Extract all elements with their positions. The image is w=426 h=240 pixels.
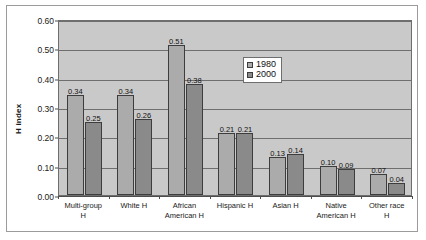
- x-axis-tick-mark: [412, 196, 413, 199]
- bar-group: 0.510.38: [160, 21, 211, 195]
- bar-value-label: 0.09: [333, 161, 360, 170]
- bar-group: 0.070.04: [362, 21, 413, 195]
- legend-label: 2000: [256, 70, 276, 79]
- bar-2000-4[interactable]: [287, 154, 304, 195]
- x-axis-category-line: H: [361, 211, 412, 221]
- x-axis-category-line: White H: [109, 201, 160, 211]
- bar-value-label: 0.14: [282, 146, 309, 155]
- bar-value-label: 0.34: [62, 87, 89, 96]
- legend-label: 1980: [256, 60, 276, 69]
- x-axis-tick-mark: [58, 196, 59, 199]
- bar-2000-5[interactable]: [338, 169, 355, 195]
- x-axis-category-line: Multi-group: [58, 201, 109, 211]
- x-axis-line: [58, 196, 412, 197]
- bar-value-label: 0.25: [80, 114, 107, 123]
- x-axis-category-label: Asian H: [260, 201, 311, 211]
- bar-2000-1[interactable]: [135, 119, 152, 195]
- legend-item[interactable]: 1980: [247, 60, 276, 69]
- bar-1980-5[interactable]: [320, 166, 337, 195]
- y-axis-tick-label: 0.10: [37, 163, 54, 173]
- bar-1980-2[interactable]: [168, 45, 185, 195]
- x-axis-category-label: Hispanic H: [210, 201, 261, 211]
- bar-value-label: 0.21: [231, 125, 258, 134]
- bar-1980-0[interactable]: [67, 95, 84, 195]
- x-axis-category-line: Asian H: [260, 201, 311, 211]
- chart-legend: 19802000: [243, 57, 282, 83]
- bar-2000-0[interactable]: [85, 122, 102, 195]
- bar-1980-4[interactable]: [269, 157, 286, 195]
- y-axis-tick-label: 0.60: [37, 16, 54, 26]
- chart-frame: H index 0.600.500.400.300.200.100.00 0.3…: [6, 5, 418, 232]
- x-axis-category-label: AfricanAmerican H: [159, 201, 210, 220]
- x-axis-category-label: Multi-groupH: [58, 201, 109, 220]
- y-axis-tick-label: 0.00: [37, 192, 54, 202]
- x-axis-category-line: American H: [311, 211, 362, 221]
- bar-value-label: 0.38: [181, 76, 208, 85]
- legend-swatch-icon: [247, 72, 253, 78]
- x-axis-category-line: Native: [311, 201, 362, 211]
- x-axis-category-line: Other race: [361, 201, 412, 211]
- bar-2000-3[interactable]: [236, 133, 253, 195]
- bar-group: 0.340.26: [110, 21, 161, 195]
- x-axis-category-line: Hispanic H: [210, 201, 261, 211]
- x-axis-tick-mark: [311, 196, 312, 199]
- x-axis-tick-mark: [109, 196, 110, 199]
- y-axis-tick-label: 0.50: [37, 45, 54, 55]
- x-axis-tick-mark: [159, 196, 160, 199]
- x-axis-tick-mark: [361, 196, 362, 199]
- y-axis-tick-label: 0.40: [37, 75, 54, 85]
- bar-value-label: 0.26: [130, 111, 157, 120]
- bar-value-label: 0.07: [365, 166, 392, 175]
- bar-2000-6[interactable]: [388, 183, 405, 195]
- y-axis-tick-label: 0.30: [37, 104, 54, 114]
- x-axis-category-line: H: [58, 211, 109, 221]
- bar-value-label: 0.34: [112, 87, 139, 96]
- bar-value-label: 0.51: [163, 37, 190, 46]
- y-axis-tick-labels: 0.600.500.400.300.200.100.00: [25, 20, 58, 196]
- legend-item[interactable]: 2000: [247, 70, 276, 79]
- bar-group: 0.100.09: [312, 21, 363, 195]
- bars-layer: 0.340.250.340.260.510.380.210.210.130.14…: [59, 21, 411, 195]
- bar-group: 0.340.25: [59, 21, 110, 195]
- x-axis-tick-mark: [260, 196, 261, 199]
- x-axis-category-line: African: [159, 201, 210, 211]
- bar-2000-2[interactable]: [186, 84, 203, 195]
- x-axis-tick-labels: Multi-groupHWhite HAfricanAmerican HHisp…: [58, 201, 412, 231]
- bar-1980-3[interactable]: [218, 133, 235, 195]
- bar-group: 0.130.14: [261, 21, 312, 195]
- plot-area: 0.340.250.340.260.510.380.210.210.130.14…: [58, 20, 412, 196]
- legend-swatch-icon: [247, 62, 253, 68]
- x-axis-category-label: NativeAmerican H: [311, 201, 362, 220]
- x-axis-tick-mark: [210, 196, 211, 199]
- y-axis-title: H index: [11, 84, 25, 154]
- x-axis-category-label: Other raceH: [361, 201, 412, 220]
- x-axis-category-line: American H: [159, 211, 210, 221]
- bar-value-label: 0.04: [383, 175, 410, 184]
- bar-group: 0.210.21: [211, 21, 262, 195]
- x-axis-category-label: White H: [109, 201, 160, 211]
- y-axis-tick-label: 0.20: [37, 133, 54, 143]
